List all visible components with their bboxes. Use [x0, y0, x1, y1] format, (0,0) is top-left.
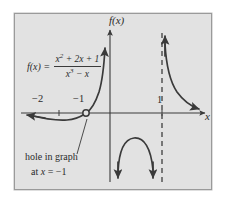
x-tick-label-neg2: −2: [32, 94, 43, 105]
hole-marker: [83, 110, 89, 116]
y-axis-label: f(x): [109, 15, 124, 26]
equation-lhs: f(x): [27, 61, 41, 72]
x-axis-label: x: [205, 111, 210, 122]
x-tick-label-neg1: −1: [73, 94, 84, 105]
curve-right-branch: [165, 44, 199, 109]
curve-middle-branch: [118, 138, 153, 172]
hole-annotation: hole in graph at x = −1: [25, 150, 78, 179]
equation-numerator: x2 + 2x + 1: [54, 52, 102, 67]
annotation-line-2: at x = −1: [25, 165, 78, 180]
numerator-exponent: 2: [60, 52, 64, 60]
annotation-value: = −1: [45, 166, 66, 177]
function-equation: f(x) = x2 + 2x + 1 x3 − x: [27, 52, 101, 80]
numerator-rest: + 2x + 1: [66, 54, 100, 64]
figure-page: f(x) x −2 −1 1 f(x) = x2 + 2x + 1 x3 − x…: [0, 0, 232, 210]
equation-equals-sign: =: [44, 61, 50, 72]
equation-denominator: x3 − x: [64, 67, 91, 81]
equation-fraction: x2 + 2x + 1 x3 − x: [54, 52, 102, 80]
annotation-at-prefix: at: [31, 166, 41, 177]
denominator-rest: − x: [76, 69, 89, 79]
curve-left-tail-arrow: [27, 115, 45, 118]
annotation-line-1: hole in graph: [25, 151, 78, 162]
x-tick-label-one: 1: [157, 95, 162, 106]
annotation-leader-line: [77, 119, 87, 154]
denominator-exponent: 3: [70, 67, 74, 75]
